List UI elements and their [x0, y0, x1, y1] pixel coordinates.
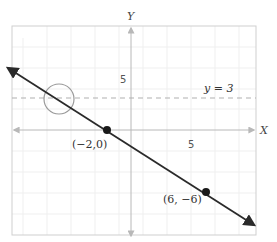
point-neg2-0 — [103, 126, 111, 134]
y-tick-5: 5 — [120, 74, 126, 85]
x-tick-5: 5 — [188, 139, 194, 150]
point-a-label: (−2,0) — [72, 138, 107, 151]
x-axis-label: X — [259, 124, 269, 137]
dashed-line-label: y = 3 — [203, 82, 233, 95]
y-axis-label: Y — [127, 10, 136, 23]
point-b-label: (6, −6) — [163, 193, 202, 206]
point-6-neg6 — [202, 188, 210, 196]
coordinate-graph: X Y 5 5 y = 3 (−2,0) (6, −6) — [0, 0, 277, 242]
